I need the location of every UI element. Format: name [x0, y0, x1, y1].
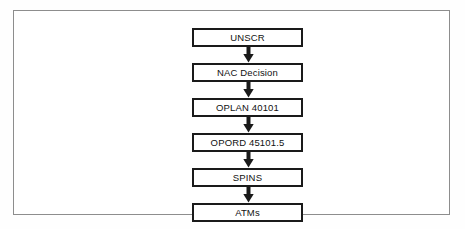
arrow-down-icon — [243, 47, 254, 63]
diagram-outer-frame: UNSCR NAC Decision OPLAN 40101 OPORD 451… — [13, 10, 450, 215]
flow-node-label: NAC Decision — [217, 68, 278, 78]
flow-node-atms: ATMs — [192, 203, 303, 222]
flowchart-column: UNSCR NAC Decision OPLAN 40101 OPORD 451… — [192, 28, 303, 219]
flow-node-oplan: OPLAN 40101 — [192, 98, 303, 117]
flow-node-label: SPINS — [233, 173, 262, 183]
figure-root: UNSCR NAC Decision OPLAN 40101 OPORD 451… — [0, 0, 465, 229]
flow-node-label: ATMs — [235, 208, 260, 218]
arrow-down-icon — [243, 82, 254, 98]
flow-node-label: OPORD 45101.5 — [211, 138, 285, 148]
flow-node-spins: SPINS — [192, 168, 303, 187]
flow-node-label: UNSCR — [230, 33, 265, 43]
flow-node-unscr: UNSCR — [192, 28, 303, 47]
flow-node-nac-decision: NAC Decision — [192, 63, 303, 82]
arrow-down-icon — [243, 117, 254, 133]
flow-node-opord: OPORD 45101.5 — [192, 133, 303, 152]
arrow-down-icon — [243, 152, 254, 168]
arrow-down-icon — [243, 187, 254, 203]
flow-node-label: OPLAN 40101 — [216, 103, 279, 113]
